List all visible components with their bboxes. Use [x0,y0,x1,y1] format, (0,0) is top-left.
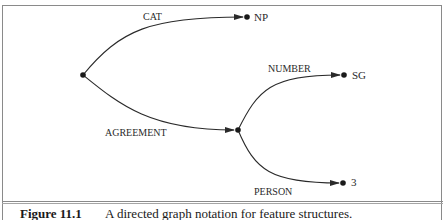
edge-cat: CAT [83,11,243,75]
edge-label-person: PERSON [254,186,292,197]
edge-label-number: NUMBER [268,63,311,74]
caption-separator-secondary [2,203,443,204]
node-label-three: 3 [351,176,357,188]
caption-separator [2,201,443,202]
edge-number: NUMBER [238,63,340,130]
node-agreement [235,127,241,133]
node-label-sg: SG [352,69,366,81]
node-sg [341,72,347,78]
figure-caption: Figure 11.1A directed graph notation for… [20,206,352,220]
edge-agreement: AGREEMENT [83,75,234,138]
node-label-np: NP [254,11,268,23]
caption-text: A directed graph notation for feature st… [105,206,352,220]
edge-person: PERSON [238,130,339,197]
caption-label: Figure 11.1 [20,206,105,220]
node-np [244,14,250,20]
edge-label-agreement: AGREEMENT [105,127,167,138]
node-three [340,180,346,186]
node-root [80,72,86,78]
feature-structure-graph: CAT AGREEMENT NUMBER PERSON NP SG 3 [0,0,445,220]
edge-label-cat: CAT [143,11,162,22]
